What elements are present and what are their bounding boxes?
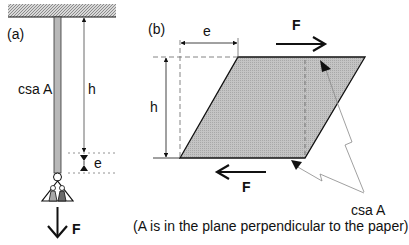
- csa-leader-bottom: [296, 166, 364, 193]
- panel-b: [153, 37, 365, 193]
- e-label-b: e: [203, 24, 211, 38]
- force-label-top: F: [292, 18, 301, 32]
- panel-a-label: (a): [7, 27, 24, 41]
- sheared-block: [180, 57, 365, 158]
- weight-hanger: [42, 181, 73, 201]
- caption: (A is in the plane perpendicular to the …: [133, 219, 409, 233]
- panel-b-label: (b): [148, 22, 165, 36]
- panel-a: [8, 4, 116, 237]
- force-label-bottom: F: [242, 180, 251, 194]
- hook-ring: [54, 173, 62, 181]
- h-label-b: h: [150, 100, 158, 114]
- e-label-a: e: [94, 156, 102, 170]
- rod: [54, 17, 61, 173]
- h-label-a: h: [88, 82, 96, 96]
- ceiling-support: [8, 4, 116, 17]
- force-label-a: F: [72, 222, 81, 236]
- csa-label-a: csa A: [18, 82, 52, 96]
- csa-label-b: csa A: [351, 203, 385, 217]
